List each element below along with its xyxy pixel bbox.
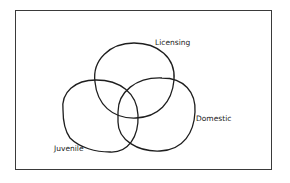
domestic-label: Domestic (196, 115, 231, 123)
licensing-label: Licensing (155, 39, 190, 47)
juvenile-label: Juvenile (54, 145, 84, 153)
venn-diagram (0, 0, 290, 183)
domestic-circle (118, 78, 195, 151)
